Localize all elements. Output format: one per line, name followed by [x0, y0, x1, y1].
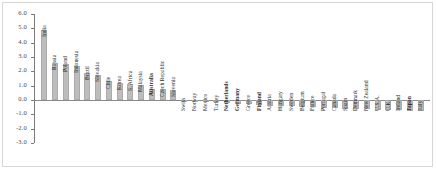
bar-group: Italy	[415, 8, 426, 160]
bar-category-label: Poland	[62, 56, 68, 72]
bar-group: Austria	[265, 8, 276, 160]
bar-category-label: Mexico	[202, 94, 208, 111]
bar-category-label: Slovenia	[170, 77, 176, 97]
bar-category-label: Germany	[234, 88, 240, 111]
bar-group: Spain	[340, 8, 351, 160]
bar-group: India	[39, 8, 50, 160]
bar-group: Belgium	[297, 8, 308, 160]
bar-category-label: S. Africa	[127, 71, 133, 91]
plot-area: 6.05.04.03.02.01.00.0-1.0-2.0-3.0 IndiaR…	[34, 8, 430, 160]
bar-group: Germany	[233, 8, 244, 160]
bar-group: Sweden	[286, 8, 297, 160]
bar-category-label: France	[309, 95, 315, 111]
bar-category-label: Greece	[245, 95, 251, 111]
bar-category-label: Czech Republic	[159, 60, 165, 96]
bar-series: IndiaRussiaPolandIndonesiaBrazilSlovakia…	[34, 8, 430, 160]
bar-category-label: Indonesia	[73, 51, 79, 73]
bar-category-label: Sweden	[288, 93, 294, 111]
bar-group: U.K.	[383, 8, 394, 160]
y-tick-label: -1.0	[16, 109, 27, 116]
y-tick-label: 2.0	[18, 66, 27, 73]
y-tick-label: 1.0	[18, 81, 27, 88]
bar-chart: 6.05.04.03.02.01.00.0-1.0-2.0-3.0 IndiaR…	[0, 0, 436, 170]
bar-category-label: Belgium	[299, 91, 305, 111]
bar-category-label: Canada	[331, 94, 337, 111]
bar-category-label: U.K.	[385, 100, 391, 111]
bar-category-label: Brazil	[84, 66, 90, 80]
y-tick-label: 0.0	[18, 95, 27, 102]
bar-category-label: Finland	[256, 92, 262, 111]
bar-group: Hungary	[276, 8, 287, 160]
bar-group: U.S.A.	[372, 8, 383, 160]
bar-group: New Zealand	[362, 8, 373, 160]
bar-group: Korea	[114, 8, 125, 160]
bar-group: Chile	[104, 8, 115, 160]
bar-group: Greece	[243, 8, 254, 160]
bar-category-label: Russia	[51, 55, 57, 70]
y-tick-label: -2.0	[16, 124, 27, 131]
bar-category-label: Norway	[191, 93, 197, 111]
bar-category-label: U.S.A.	[374, 95, 380, 111]
bar-group: Turkey	[211, 8, 222, 160]
bar-group: Canada	[329, 8, 340, 160]
bar-group: Brazil	[82, 8, 93, 160]
y-tick-label: 5.0	[18, 23, 27, 30]
bar-group: Indonesia	[71, 8, 82, 160]
bar-group: Mexico	[200, 8, 211, 160]
bar-group: Czech Republic	[157, 8, 168, 160]
bar-category-label: Portugal	[320, 92, 326, 111]
bar-category-label: Spain	[342, 98, 348, 111]
bar-category-label: Denmark	[352, 90, 358, 111]
bar-category-label: Chile	[105, 76, 111, 88]
bar-category-label: Hungary	[277, 91, 283, 111]
bar-group: Slovenia	[168, 8, 179, 160]
bar-category-label: Japan	[406, 96, 412, 111]
bar-group: Finland	[254, 8, 265, 160]
y-tick-label: 4.0	[18, 38, 27, 45]
bar-category-label: Australia	[148, 73, 154, 96]
bar-group: Swiss	[179, 8, 190, 160]
bar-category-label: Italy	[417, 100, 423, 111]
bar-category-label: Swiss	[180, 98, 186, 111]
bar-category-label: India	[41, 26, 47, 38]
bar-group: Malaysia	[136, 8, 147, 160]
bar-category-label: Turkey	[213, 95, 219, 111]
bar-category-label: Slovakia	[94, 62, 100, 82]
bar[interactable]	[41, 30, 47, 100]
bar-group: Ireland	[394, 8, 405, 160]
y-tick-label: -3.0	[16, 138, 27, 145]
bar-category-label: Ireland	[395, 95, 401, 111]
bar-group: Australia	[147, 8, 158, 160]
bar-group: S. Africa	[125, 8, 136, 160]
bar-category-label: New Zealand	[363, 80, 369, 111]
bar-group: Denmark	[351, 8, 362, 160]
bar-group: Russia	[50, 8, 61, 160]
bar-category-label: Netherlands	[223, 81, 229, 111]
bar-group: Poland	[61, 8, 72, 160]
y-tick-label: 3.0	[18, 52, 27, 59]
bar-category-label: Malaysia	[137, 72, 143, 93]
bar-group: Norway	[190, 8, 201, 160]
bar-group: Slovakia	[93, 8, 104, 160]
bar-group: France	[308, 8, 319, 160]
bar-category-label: Austria	[266, 94, 272, 111]
bar-group: Portugal	[319, 8, 330, 160]
y-tick-label: 6.0	[18, 9, 27, 16]
bar-group: Japan	[405, 8, 416, 160]
bar-group: Netherlands	[222, 8, 233, 160]
bar-category-label: Korea	[116, 76, 122, 90]
